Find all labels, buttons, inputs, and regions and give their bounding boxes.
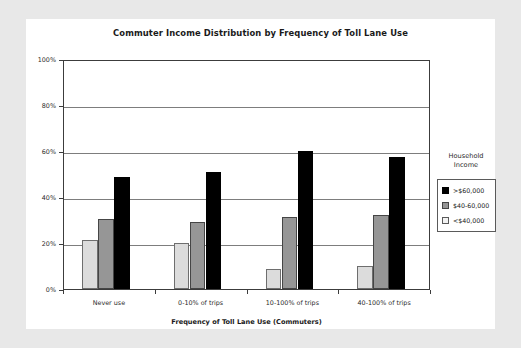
x-axis-category-label: Never use	[93, 299, 125, 307]
gridline	[64, 153, 429, 154]
legend-swatch-icon	[442, 217, 449, 224]
bar	[82, 240, 98, 289]
y-axis-tick-label: 40%	[26, 194, 56, 202]
bar	[206, 172, 222, 289]
bar	[373, 215, 389, 289]
legend-title: Household Income	[435, 152, 497, 170]
chart-canvas: Commuter Income Distribution by Frequenc…	[26, 19, 495, 329]
bar	[298, 151, 314, 289]
legend: >$60,000$40-60,000<$40,000	[437, 179, 496, 232]
x-axis-category-label: 40-100% of trips	[358, 299, 411, 307]
bar	[174, 243, 190, 289]
bar	[282, 217, 298, 289]
x-axis-category-label: 10-100% of trips	[266, 299, 319, 307]
legend-item-label: <$40,000	[453, 217, 484, 224]
legend-item: $40-60,000	[442, 199, 489, 212]
bar	[266, 269, 282, 289]
x-axis-title: Frequency of Toll Lane Use (Commuters)	[63, 318, 430, 326]
bar	[114, 177, 130, 289]
y-axis-tick-label: 0%	[26, 286, 56, 294]
chart-figure: Commuter Income Distribution by Frequenc…	[0, 0, 521, 348]
bar	[389, 157, 405, 289]
bar	[190, 222, 206, 289]
legend-swatch-icon	[442, 187, 449, 194]
y-axis-tick-label: 60%	[26, 148, 56, 156]
plot-area	[63, 60, 430, 290]
y-axis-tick-label: 100%	[26, 56, 56, 64]
legend-item: <$40,000	[442, 214, 484, 227]
x-axis-tick-mark	[430, 290, 431, 294]
x-axis-tick-mark	[338, 290, 339, 294]
legend-title-line-1: Household	[435, 152, 497, 161]
y-axis-tick-label: 20%	[26, 240, 56, 248]
legend-item-label: $40-60,000	[453, 202, 489, 209]
legend-item-label: >$60,000	[453, 187, 484, 194]
chart-title: Commuter Income Distribution by Frequenc…	[26, 28, 495, 38]
bar	[357, 266, 373, 289]
x-axis-category-label: 0-10% of trips	[178, 299, 223, 307]
gridline	[64, 107, 429, 108]
legend-swatch-icon	[442, 202, 449, 209]
legend-item: >$60,000	[442, 184, 484, 197]
legend-title-line-2: Income	[435, 161, 497, 170]
x-axis-tick-mark	[63, 290, 64, 294]
y-axis-tick-label: 80%	[26, 102, 56, 110]
x-axis-tick-mark	[155, 290, 156, 294]
bar	[98, 219, 114, 289]
x-axis-tick-mark	[247, 290, 248, 294]
